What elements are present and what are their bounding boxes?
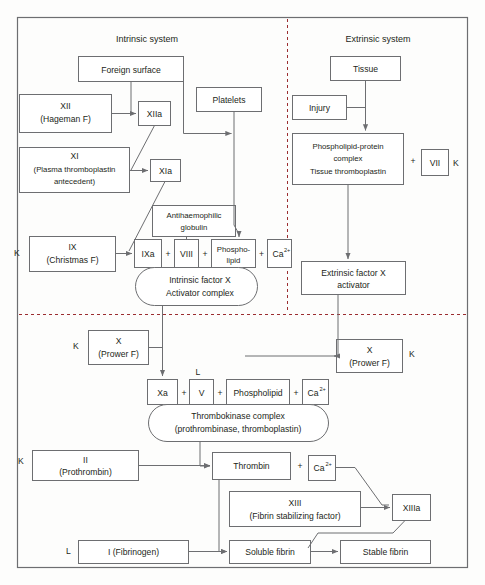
plus-sign-2: + — [202, 249, 207, 259]
plus-sign-6: + — [217, 388, 222, 398]
vitamin-l-label-v: L — [196, 367, 201, 377]
label-xiiia: XIIIa — [403, 503, 421, 513]
label-calcium-thrombin-superscript: 2+ — [326, 461, 332, 467]
plus-sign-1: + — [165, 249, 170, 259]
label-calcium-intrinsic: Ca — [273, 249, 284, 259]
label-intrinsic-complex-1: Intrinsic factor X — [169, 275, 231, 285]
vitamin-k-label-vii: K — [453, 158, 459, 168]
heading-extrinsic-system: Extrinsic system — [345, 34, 410, 44]
label-phospholipid-protein-3: Tissue thromboplastin — [310, 167, 386, 176]
label-calcium-intrinsic-superscript: 2+ — [284, 247, 290, 253]
label-xii: XII — [60, 101, 71, 111]
label-calcium-thrombin: Ca — [314, 463, 325, 473]
label-extrinsic-activator-2: activator — [337, 280, 370, 290]
label-phospholipid-2: lipid — [227, 256, 241, 265]
label-thrombin: Thrombin — [233, 461, 270, 471]
label-injury: Injury — [309, 103, 331, 113]
label-xi: XI — [70, 151, 78, 161]
plus-sign-7: + — [293, 388, 298, 398]
heading-intrinsic-system: Intrinsic system — [116, 34, 178, 44]
label-platelets: Platelets — [213, 95, 246, 105]
label-ii-sub: (Prothrombin) — [59, 467, 112, 477]
vitamin-k-label-x-left: K — [73, 341, 79, 351]
label-thrombokinase-2: (prothrombinase, thromboplastin) — [175, 424, 302, 434]
label-ii: II — [83, 455, 88, 465]
label-antihaemophilic-1: Antihaemophilic — [166, 211, 221, 220]
vitamin-k-label-ix: K — [14, 248, 20, 258]
label-xi-sub1: (Plasma thromboplastin — [34, 165, 116, 174]
label-ix-sub: (Christmas F) — [46, 255, 98, 265]
label-xii-sub: (Hageman F) — [40, 114, 91, 124]
plus-sign-5: + — [181, 388, 186, 398]
label-xiia: XIIa — [147, 109, 163, 119]
label-foreign-surface: Foreign surface — [101, 65, 161, 75]
plus-sign-8: + — [297, 461, 302, 471]
label-stable-fibrin: Stable fibrin — [363, 547, 409, 557]
label-phospholipid-protein-2: complex — [333, 154, 362, 163]
plus-sign-3: + — [259, 249, 264, 259]
label-xiii: XIII — [289, 498, 302, 508]
box-xiii — [230, 492, 361, 527]
label-extrinsic-activator-1: Extrinsic factor X — [321, 268, 386, 278]
label-calcium-common-superscript: 2+ — [320, 386, 326, 392]
connector-thrombin-to-soluble-fibrin — [219, 480, 227, 552]
label-xa: Xa — [157, 388, 168, 398]
label-x-right-sub: (Prower F) — [349, 358, 390, 368]
label-vii: VII — [430, 158, 441, 168]
label-x-left: X — [116, 336, 122, 346]
label-tissue: Tissue — [353, 64, 378, 74]
box-intrinsic-factor-x-activator-complex — [136, 268, 258, 306]
label-phospholipid-protein-1: Phospholipid-protein — [312, 142, 383, 151]
label-calcium-common: Ca — [308, 388, 319, 398]
plus-sign-4: + — [410, 156, 415, 166]
label-xia: XIa — [159, 166, 172, 176]
label-soluble-fibrin: Soluble fibrin — [245, 547, 295, 557]
label-intrinsic-complex-2: Activator complex — [166, 288, 235, 298]
coagulation-cascade-diagram: Intrinsic system Extrinsic system Foreig… — [0, 0, 485, 585]
vitamin-k-label-ii: K — [18, 456, 24, 466]
vitamin-l-label-fibrinogen: L — [66, 546, 71, 556]
vitamin-k-label-x-right: K — [409, 349, 415, 359]
label-v: V — [199, 388, 205, 398]
label-ixa: IXa — [142, 249, 155, 259]
label-ix: IX — [68, 242, 76, 252]
label-thrombokinase-1: Thrombokinase complex — [191, 411, 285, 421]
label-viii: VIII — [180, 249, 193, 259]
connector-thrombokinase-to-thrombin — [200, 442, 210, 467]
label-xi-sub2: antecedent) — [54, 177, 96, 186]
label-phospholipid-common: Phospholipid — [233, 388, 282, 398]
label-x-right: X — [367, 345, 373, 355]
label-phospholipid-1: Phospho- — [217, 245, 251, 254]
label-i-fibrinogen: I (Fibrinogen) — [108, 547, 159, 557]
label-x-left-sub: (Prower F) — [98, 349, 139, 359]
label-antihaemophilic-2: globulin — [181, 223, 208, 232]
label-xiii-sub: (Fibrin stabilizing factor) — [249, 511, 340, 521]
